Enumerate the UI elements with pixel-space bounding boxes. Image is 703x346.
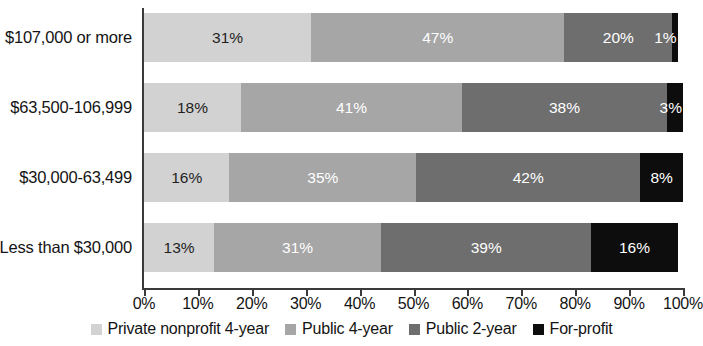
- legend-item-label: Private nonprofit 4-year: [108, 321, 270, 337]
- bar-segment-value-label: 8%: [650, 170, 672, 186]
- bar-segment: 8%: [640, 153, 683, 202]
- legend-item[interactable]: For-profit: [533, 321, 613, 337]
- bar-segment: 3%: [667, 83, 683, 132]
- x-axis-tick-label: 100%: [663, 296, 703, 312]
- chart-legend: Private nonprofit 4-yearPublic 4-yearPub…: [0, 321, 703, 337]
- x-axis-tick-label: 20%: [236, 296, 267, 312]
- x-axis-tick-label: 50%: [398, 296, 429, 312]
- bar-segment: 16%: [144, 153, 229, 202]
- bar-segment: 1%: [672, 13, 677, 62]
- bar-segment: 20%: [564, 13, 672, 62]
- x-axis-tick-label: 10%: [182, 296, 213, 312]
- category-label: $30,000-63,499: [19, 169, 132, 186]
- x-axis-tick-label: 90%: [613, 296, 644, 312]
- x-axis-tick-label: 80%: [559, 296, 590, 312]
- legend-swatch-icon: [285, 324, 296, 335]
- bar-segment-value-label: 16%: [171, 170, 202, 186]
- bar-segment-value-label: 38%: [549, 100, 580, 116]
- bar-segment-value-label: 42%: [513, 170, 544, 186]
- bar-segment-value-label: 35%: [307, 170, 338, 186]
- bar-segment: 31%: [214, 223, 381, 272]
- bar-segment-value-label: 31%: [282, 240, 313, 256]
- bar-segment-value-label: 13%: [164, 240, 195, 256]
- x-axis-tick-label: 60%: [452, 296, 483, 312]
- legend-item[interactable]: Public 2-year: [409, 321, 517, 337]
- bar-segment-value-label: 47%: [422, 30, 453, 46]
- bar-segment-value-label: 41%: [336, 100, 367, 116]
- category-label: $63,500-106,999: [10, 99, 132, 116]
- bar-segment: 41%: [241, 83, 462, 132]
- bar-segment-value-label: 31%: [212, 30, 243, 46]
- bar-row: 13%31%39%16%: [144, 223, 683, 272]
- bar-segment-value-label: 18%: [177, 100, 208, 116]
- bar-segment: 38%: [462, 83, 667, 132]
- legend-item[interactable]: Private nonprofit 4-year: [91, 321, 270, 337]
- x-axis-tick-label: 30%: [290, 296, 321, 312]
- bar-segment-value-label: 20%: [603, 30, 634, 46]
- bar-segment: 42%: [416, 153, 640, 202]
- category-label: $107,000 or more: [5, 29, 132, 46]
- x-axis-labels: 0%10%20%30%40%50%60%70%80%90%100%: [0, 296, 703, 318]
- stacked-bar-chart: $107,000 or more $63,500-106,999 $30,000…: [0, 0, 703, 346]
- legend-item[interactable]: Public 4-year: [285, 321, 393, 337]
- bar-segment: 31%: [144, 13, 311, 62]
- bar-row: 18%41%38%3%: [144, 83, 683, 132]
- x-axis-tick-label: 70%: [506, 296, 537, 312]
- legend-swatch-icon: [91, 324, 102, 335]
- category-axis: $107,000 or more $63,500-106,999 $30,000…: [0, 0, 138, 288]
- legend-item-label: Public 4-year: [302, 321, 393, 337]
- x-axis-tick-label: 0%: [133, 296, 156, 312]
- bar-segment: 35%: [229, 153, 416, 202]
- bar-row: 31%47%20%1%: [144, 13, 683, 62]
- bar-segment: 18%: [144, 83, 241, 132]
- bar-segment-value-label: 39%: [471, 240, 502, 256]
- bar-segment: 39%: [381, 223, 591, 272]
- plot-area: 31%47%20%1%18%41%38%3%16%35%42%8%13%31%3…: [144, 8, 683, 288]
- x-axis-tick-label: 40%: [344, 296, 375, 312]
- legend-swatch-icon: [409, 324, 420, 335]
- bar-segment: 13%: [144, 223, 214, 272]
- bar-segment-value-label: 16%: [619, 240, 650, 256]
- legend-item-label: For-profit: [550, 321, 613, 337]
- legend-item-label: Public 2-year: [426, 321, 517, 337]
- legend-swatch-icon: [533, 324, 544, 335]
- bar-segment: 16%: [591, 223, 677, 272]
- bar-row: 16%35%42%8%: [144, 153, 683, 202]
- bar-segment: 47%: [311, 13, 564, 62]
- category-label: Less than $30,000: [0, 239, 132, 256]
